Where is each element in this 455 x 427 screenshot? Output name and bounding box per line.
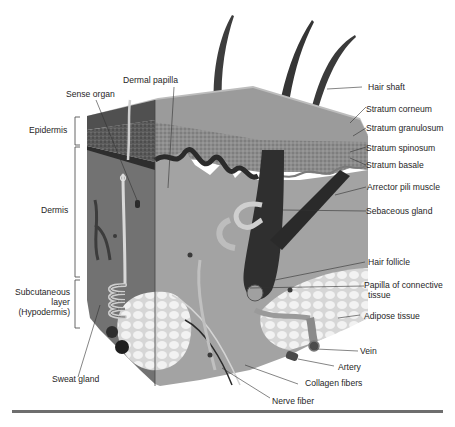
label-subcutaneous-line2: layer: [8, 297, 70, 307]
label-sweat-gland: Sweat gland: [52, 374, 99, 384]
label-subcutaneous-line1: Subcutaneous: [8, 287, 70, 297]
label-epidermis: Epidermis: [29, 125, 67, 135]
label-subcutaneous: Subcutaneous layer (Hypodermis): [8, 287, 70, 317]
label-dermal-papilla: Dermal papilla: [123, 75, 178, 85]
label-artery: Artery: [338, 362, 361, 372]
label-arrector-pili-muscle: Arrector pili muscle: [367, 182, 440, 192]
bottom-divider: [12, 410, 443, 413]
label-stratum-basale: Stratum basale: [366, 160, 424, 170]
label-subcutaneous-line3: (Hypodermis): [8, 307, 70, 317]
label-papilla-of-connective-tissue: Papilla of connective tissue: [364, 280, 443, 300]
label-adipose-tissue: Adipose tissue: [364, 311, 420, 321]
adipose-left: [117, 292, 191, 370]
label-stratum-corneum: Stratum corneum: [366, 104, 432, 114]
label-dermis: Dermis: [41, 205, 68, 215]
label-hair-shaft: Hair shaft: [368, 82, 405, 92]
label-collagen-fibers: Collagen fibers: [305, 378, 362, 388]
label-stratum-spinosum: Stratum spinosum: [366, 143, 435, 153]
label-sense-organ: Sense organ: [66, 89, 115, 99]
label-sebaceous-gland: Sebaceous gland: [366, 206, 432, 216]
label-nerve-fiber: Nerve fiber: [272, 396, 314, 406]
label-stratum-granulosum: Stratum granulosum: [366, 123, 443, 133]
label-papilla-line2: tissue: [364, 290, 443, 300]
label-papilla-line1: Papilla of connective: [364, 280, 443, 290]
skin-diagram: Epidermis Dermis Subcutaneous layer (Hyp…: [0, 0, 455, 427]
label-hair-follicle: Hair follicle: [368, 257, 410, 267]
layer-brackets: [75, 117, 80, 328]
label-vein: Vein: [360, 346, 377, 356]
